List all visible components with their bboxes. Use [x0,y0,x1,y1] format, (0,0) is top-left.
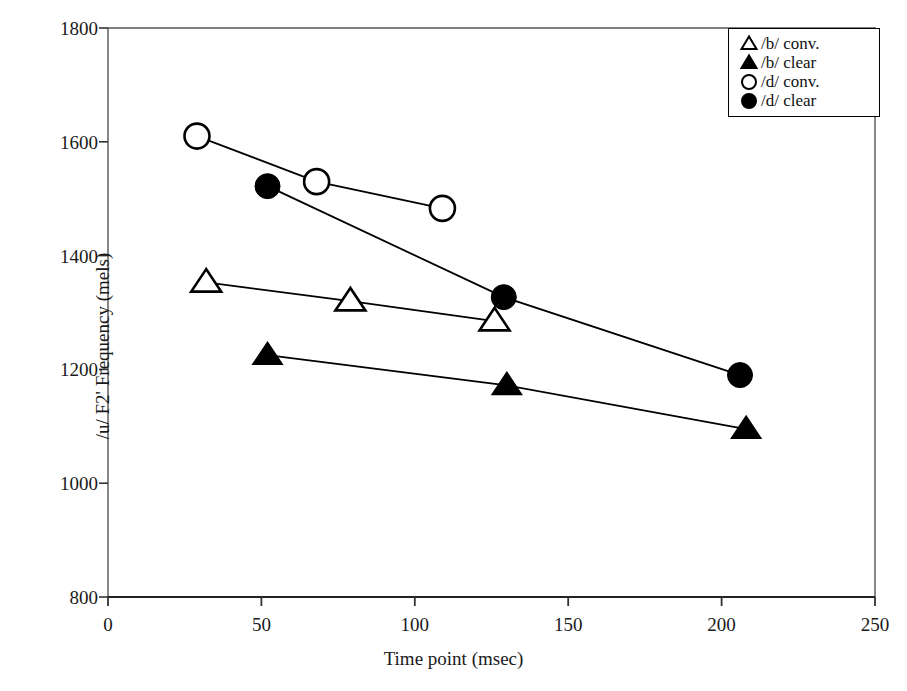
y-axis-title: /u/ F2' Frequency (mels) [92,252,114,439]
series-markers [184,124,454,221]
x-axis-tick-label: 50 [252,615,271,634]
x-axis-title: Time point (msec) [0,648,907,670]
filled-circle-icon [739,91,759,110]
data-point-filled-circle [742,94,756,108]
open-triangle-icon [739,34,759,53]
legend-item-label: /d/ clear [761,91,816,111]
data-point-open-circle [184,124,209,149]
open-circle-icon [739,72,759,91]
data-point-open-circle [430,196,455,221]
data-point-filled-circle [255,174,280,199]
x-axis-tick-label: 200 [707,615,736,634]
x-axis-tick-label: 250 [861,615,890,634]
data-point-open-circle [304,169,329,194]
legend-item-label: /b/ conv. [761,34,819,54]
y-axis-tick-label: 1400 [40,246,98,265]
data-point-open-circle [742,75,756,89]
x-axis-tick-label: 150 [554,615,583,634]
x-axis-tick-label: 0 [103,615,113,634]
legend-item[interactable]: /b/ clear [729,53,879,72]
data-point-filled-circle [728,363,753,388]
legend-item[interactable]: /d/ clear [729,91,879,110]
y-axis-tick-label: 1200 [40,360,98,379]
data-point-filled-triangle [742,56,757,69]
filled-triangle-icon [739,53,759,72]
x-axis-tick-label: 100 [401,615,430,634]
data-point-open-triangle [191,269,221,292]
y-axis-tick-label: 1800 [40,19,98,38]
y-axis-tick-label: 1600 [40,132,98,151]
data-point-open-triangle [742,37,757,50]
data-point-filled-circle [491,285,516,310]
legend-item-label: /b/ clear [761,53,816,73]
legend-item[interactable]: /b/ conv. [729,34,879,53]
y-axis-tick-label: 1000 [40,474,98,493]
legend-item[interactable]: /d/ conv. [729,72,879,91]
data-point-filled-triangle [253,342,283,365]
series-line [268,186,740,375]
chart-figure: 80010001200140016001800 050100150200250 … [0,0,907,691]
chart-legend: /b/ conv./b/ clear/d/ conv./d/ clear [728,28,880,117]
legend-item-label: /d/ conv. [761,72,819,92]
y-axis-tick-label: 800 [40,588,98,607]
